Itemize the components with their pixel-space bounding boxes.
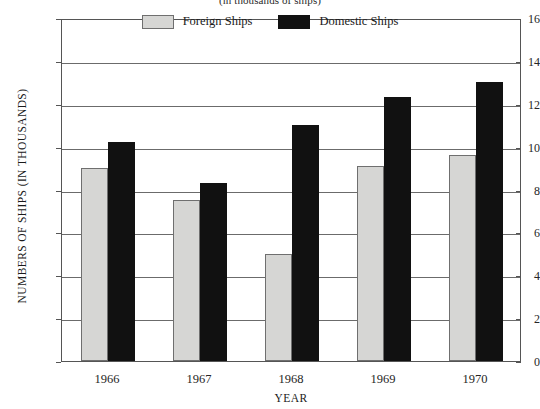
bar-domestic-ships-1969 bbox=[384, 97, 411, 361]
bar-foreign-ships-1969 bbox=[357, 166, 384, 361]
legend-label-domestic: Domestic Ships bbox=[319, 14, 398, 29]
x-tick-label: 1967 bbox=[159, 372, 239, 387]
legend-label-foreign: Foreign Ships bbox=[183, 14, 253, 29]
y-tick-mark bbox=[56, 105, 61, 106]
bar-domestic-ships-1966 bbox=[108, 142, 135, 361]
y-tick-mark bbox=[56, 191, 61, 192]
y-tick-mark bbox=[516, 233, 521, 234]
x-tick-label: 1970 bbox=[435, 372, 515, 387]
y-tick-mark bbox=[516, 62, 521, 63]
plot-area bbox=[61, 19, 521, 362]
legend-item-foreign: Foreign Ships bbox=[142, 14, 253, 29]
y-tick-mark bbox=[56, 276, 61, 277]
bar-domestic-ships-1968 bbox=[292, 125, 319, 361]
chart-page: (in thousands of ships) NUMBERS OF SHIPS… bbox=[0, 0, 540, 409]
x-axis-label: YEAR bbox=[61, 392, 521, 404]
y-tick-mark bbox=[56, 233, 61, 234]
bar-foreign-ships-1970 bbox=[449, 155, 476, 361]
gridline bbox=[62, 63, 520, 64]
legend-swatch-domestic-icon bbox=[278, 15, 310, 29]
y-tick-mark bbox=[516, 319, 521, 320]
y-tick-mark bbox=[516, 105, 521, 106]
x-tick-label: 1966 bbox=[67, 372, 147, 387]
y-tick-mark bbox=[56, 148, 61, 149]
legend-item-domestic: Domestic Ships bbox=[278, 14, 398, 29]
y-tick-mark bbox=[56, 362, 61, 363]
bar-foreign-ships-1966 bbox=[81, 168, 108, 361]
chart-subtitle: (in thousands of ships) bbox=[0, 0, 540, 6]
y-tick-mark bbox=[56, 319, 61, 320]
chart-legend: Foreign Ships Domestic Ships bbox=[0, 14, 540, 29]
bar-foreign-ships-1967 bbox=[173, 200, 200, 361]
y-tick-mark bbox=[516, 276, 521, 277]
y-tick-mark bbox=[516, 362, 521, 363]
y-tick-mark bbox=[516, 148, 521, 149]
y-tick-mark bbox=[516, 191, 521, 192]
legend-swatch-foreign-icon bbox=[142, 15, 174, 29]
x-tick-label: 1969 bbox=[343, 372, 423, 387]
bar-foreign-ships-1968 bbox=[265, 254, 292, 361]
y-axis-label: NUMBERS OF SHIPS (IN THOUSANDS) bbox=[16, 81, 28, 311]
bar-domestic-ships-1967 bbox=[200, 183, 227, 361]
y-tick-mark bbox=[56, 62, 61, 63]
x-tick-label: 1968 bbox=[251, 372, 331, 387]
gridline bbox=[62, 106, 520, 107]
